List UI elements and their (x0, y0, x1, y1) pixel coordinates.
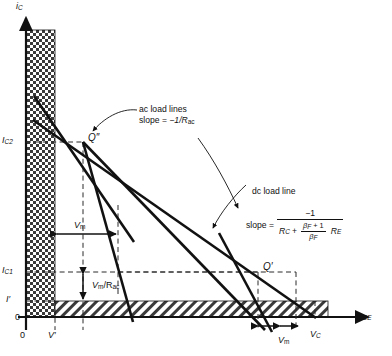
x-tick-label-v-prime: V′ (48, 331, 56, 340)
measure-label-vm-bottom: Vm (278, 336, 289, 346)
y-tick-label-i-prime: I′ (6, 295, 10, 304)
operating-point-label-q1: Q′ (263, 262, 273, 272)
saturation-band (26, 30, 55, 317)
dc-denom-plus: + (292, 226, 297, 236)
y-tick-label-ic1: IC1 (2, 266, 13, 276)
axis-lines (18, 18, 368, 330)
origin-label-x: 0 (20, 331, 25, 340)
y-tick-label-ic2: IC2 (2, 136, 13, 146)
load-line-plot (0, 0, 392, 356)
dc-slope-word: slope = (246, 220, 274, 230)
axis-label-ic: iC (16, 2, 23, 12)
leader-lines (93, 110, 246, 228)
dc-slope-numerator: −1 (299, 208, 321, 219)
dc-load-line-slope-formula: slope = −1 RC + βF + 1 βF RE (246, 208, 343, 242)
ac-annotation-line2: slope = −1/Rac (139, 115, 195, 127)
cutoff-band (55, 301, 328, 317)
axis-label-vce: vCE (358, 312, 372, 322)
ac-load-lines (34, 96, 272, 332)
ac-load-line-annotation: ac load lines slope = −1/Rac (139, 104, 195, 127)
x-tick-label-vc: VC (310, 330, 321, 340)
ac-annotation-line1: ac load lines (139, 104, 195, 115)
measure-label-vm-over-rac: Vm/Rac (92, 281, 119, 291)
operating-point-label-q2: Q″ (88, 133, 99, 143)
figure-canvas: iC vCE IC2 IC1 I′ 0 0 V′ VC Q″ Q′ ac loa… (0, 0, 392, 356)
measure-label-vm-left: Vm (74, 221, 85, 231)
origin-label-y: 0 (15, 313, 20, 322)
dc-load-line-annotation-title: dc load line (252, 186, 295, 197)
